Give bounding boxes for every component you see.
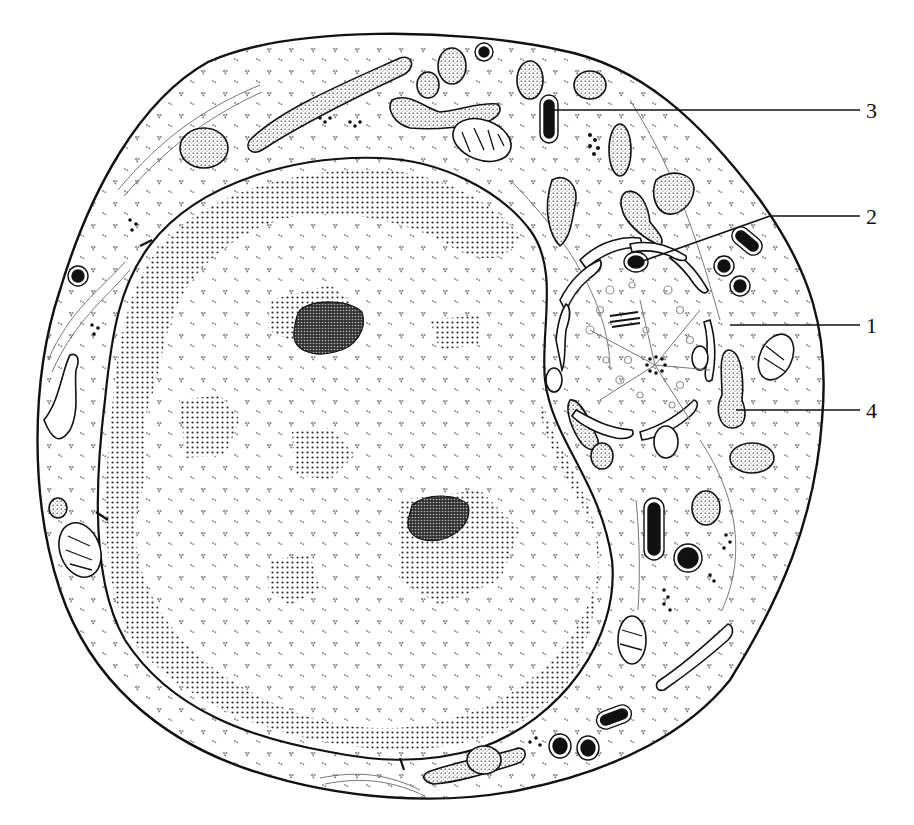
dense-granule-label-3	[540, 95, 558, 143]
stippled-vesicle	[730, 443, 774, 473]
label-1: 1	[866, 313, 877, 338]
stippled-vesicle	[438, 48, 466, 84]
dense-granule	[475, 43, 493, 61]
stippled-vesicle	[574, 71, 606, 99]
stippled-vesicle	[609, 124, 631, 176]
dense-granule	[68, 266, 88, 286]
golgi-vesicle	[692, 346, 708, 370]
dense-granule	[644, 498, 664, 560]
cell	[38, 34, 841, 810]
stippled-vesicle	[49, 498, 67, 518]
stippled-vesicle	[591, 443, 613, 469]
stippled-vesicle	[517, 61, 543, 99]
dense-granule	[674, 544, 702, 572]
stippled-vesicle	[180, 128, 228, 168]
label-4: 4	[866, 398, 877, 423]
label-2: 2	[866, 204, 877, 229]
mitochondrion	[618, 616, 646, 664]
golgi-vesicle	[654, 426, 678, 458]
stippled-vesicle	[417, 72, 439, 98]
label-3: 3	[866, 98, 877, 123]
cytoplasm-ribosomes	[40, 40, 840, 810]
dense-granule	[714, 256, 734, 276]
stippled-vesicle	[692, 491, 720, 525]
stippled-vesicle	[467, 746, 501, 774]
dense-granule-label-2	[624, 252, 648, 272]
dense-granule	[730, 276, 750, 296]
golgi-vesicle	[546, 368, 562, 392]
dense-granule	[549, 734, 571, 758]
dense-granule	[577, 736, 599, 760]
cell-diagram: 3 2 1 4	[0, 0, 914, 825]
